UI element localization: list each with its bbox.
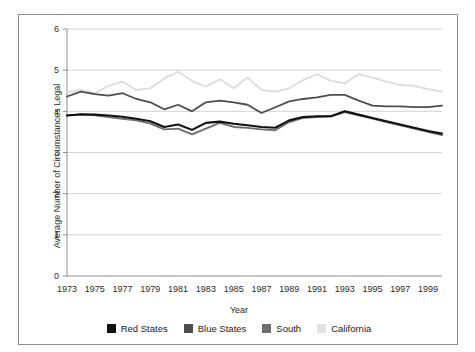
legend-item[interactable]: Blue States xyxy=(184,323,247,334)
svg-text:1999: 1999 xyxy=(418,284,438,294)
svg-text:1979: 1979 xyxy=(140,284,160,294)
svg-text:1991: 1991 xyxy=(307,284,327,294)
line-chart-plot: 0123456197319751977197919811983198519871… xyxy=(19,15,459,346)
legend-item-label: Blue States xyxy=(198,323,247,334)
legend-swatch-icon xyxy=(262,324,271,333)
svg-text:1987: 1987 xyxy=(251,284,271,294)
svg-text:1995: 1995 xyxy=(363,284,383,294)
svg-text:1983: 1983 xyxy=(196,284,216,294)
legend-item[interactable]: California xyxy=(317,323,371,334)
svg-text:1973: 1973 xyxy=(57,284,77,294)
svg-text:1989: 1989 xyxy=(279,284,299,294)
chart-legend: Red StatesBlue StatesSouthCalifornia xyxy=(19,323,459,334)
x-axis-label: Year xyxy=(19,305,459,315)
svg-text:0: 0 xyxy=(54,271,59,281)
svg-text:1985: 1985 xyxy=(224,284,244,294)
figure-container: 0123456197319751977197919811983198519871… xyxy=(0,0,475,352)
legend-item-label: South xyxy=(276,323,301,334)
y-axis-label: Average Number of Circumstances Legal xyxy=(52,66,62,266)
svg-text:1997: 1997 xyxy=(390,284,410,294)
legend-swatch-icon xyxy=(184,324,193,333)
legend-swatch-icon xyxy=(107,324,116,333)
legend-item-label: California xyxy=(331,323,371,334)
chart-frame: 0123456197319751977197919811983198519871… xyxy=(18,14,458,345)
svg-text:1993: 1993 xyxy=(335,284,355,294)
legend-item[interactable]: Red States xyxy=(107,323,168,334)
legend-item[interactable]: South xyxy=(262,323,301,334)
svg-text:1981: 1981 xyxy=(168,284,188,294)
svg-text:1975: 1975 xyxy=(85,284,105,294)
chart-title-clipped xyxy=(18,0,458,10)
legend-swatch-icon xyxy=(317,324,326,333)
svg-text:1977: 1977 xyxy=(113,284,133,294)
legend-item-label: Red States xyxy=(121,323,168,334)
svg-text:6: 6 xyxy=(54,24,59,34)
